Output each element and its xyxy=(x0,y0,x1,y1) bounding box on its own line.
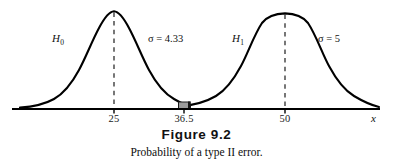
axis-variable-label: x xyxy=(371,112,376,124)
label-sigma-h1: σ = 5 xyxy=(318,33,340,44)
label-h0: H0 xyxy=(52,32,64,44)
shaded-region-right-edge xyxy=(188,102,191,110)
figure-caption-text: Probability of a type II error. xyxy=(0,144,393,160)
label-h0-letter: H xyxy=(52,32,60,44)
figure-caption-block: Figure 9.2 Probability of a type II erro… xyxy=(0,126,393,160)
figure-container: H0 H1 σ = 4.33 σ = 5 25 36.5 50 x Figure… xyxy=(0,0,393,166)
tick-label-36-5: 36.5 xyxy=(164,113,204,124)
curve-h0 xyxy=(20,11,190,107)
plot-svg xyxy=(0,0,393,128)
label-h0-subscript: 0 xyxy=(60,38,64,47)
label-sigma-h0: σ = 4.33 xyxy=(148,33,183,44)
normal-curves-plot: H0 H1 σ = 4.33 σ = 5 25 36.5 50 x xyxy=(0,0,393,128)
label-h1-letter: H xyxy=(232,32,240,44)
tick-label-25: 25 xyxy=(94,113,134,124)
label-h1: H1 xyxy=(232,32,244,44)
figure-number: Figure 9.2 xyxy=(0,126,393,143)
curve-h1 xyxy=(182,13,379,107)
tick-label-50: 50 xyxy=(265,113,305,124)
label-h1-subscript: 1 xyxy=(240,38,244,47)
